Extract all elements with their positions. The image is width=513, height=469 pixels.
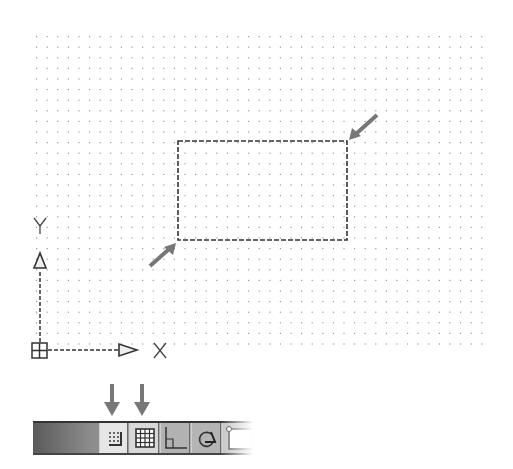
polar-tracking-icon [192,423,222,453]
callout-arrow-snap [104,384,120,418]
x-axis-label [154,343,166,358]
snap-mode-button[interactable] [99,423,128,453]
status-bar [33,421,253,455]
callout-arrow-grid [134,384,150,418]
ortho-mode-button[interactable] [160,423,190,453]
y-axis-arrow-icon [34,253,46,268]
grid-display-button[interactable] [129,423,159,453]
callout-arrow-top-right [349,115,377,140]
snap-mode-icon [100,423,129,453]
y-axis-label [34,218,46,234]
callout-arrow-bottom-left [150,243,176,266]
polar-tracking-button[interactable] [191,423,221,453]
dashed-rectangle[interactable] [178,141,347,240]
ortho-mode-icon [161,423,191,453]
ucs-icon [32,218,166,358]
drawing-canvas[interactable] [0,0,513,380]
object-snap-button[interactable] [222,423,253,453]
object-snap-icon [223,423,254,453]
x-axis-arrow-icon [119,344,137,356]
grid-display-icon [130,423,160,453]
grid-dots [36,36,482,345]
